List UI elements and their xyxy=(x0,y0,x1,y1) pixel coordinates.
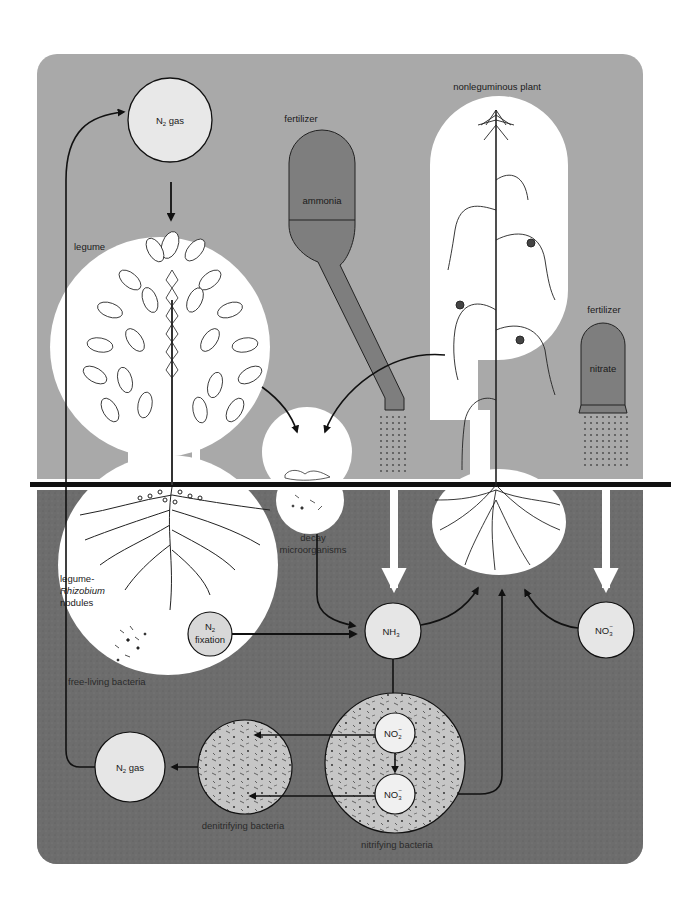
nitrogen-cycle-diagram: N2 gas legume xyxy=(0,0,681,905)
ammonia-spray xyxy=(380,412,410,472)
nitrate-spray xyxy=(580,415,628,470)
fertilizer-ammonia-title: fertilizer xyxy=(284,113,317,124)
n2-gas-top-label: N2 gas xyxy=(156,115,184,127)
fertilizer-nitrate-title: fertilizer xyxy=(587,304,620,315)
nonleguminous-plant-label: nonleguminous plant xyxy=(453,81,541,92)
rhizobium-label-line3: nodules xyxy=(60,597,94,608)
free-living-bacteria-label: free-living bacteria xyxy=(68,676,146,687)
nitrifying-bacteria-label: nitrifying bacteria xyxy=(361,839,434,850)
n2-fixation-label-line2: fixation xyxy=(195,634,225,645)
legume-label: legume xyxy=(74,241,105,252)
rhizobium-label-line1: legume- xyxy=(60,573,94,584)
denitrifying-bacteria-label: denitrifying bacteria xyxy=(202,820,285,831)
denitrifying-bacteria-region xyxy=(198,720,292,814)
n2-gas-bottom-label: N2 gas xyxy=(116,762,144,774)
decay-label-line1: decay xyxy=(300,532,326,543)
ground-line xyxy=(30,482,671,487)
ammonia-label: ammonia xyxy=(302,195,342,206)
decay-label-line2: microorganisms xyxy=(279,544,346,555)
nitrate-label: nitrate xyxy=(590,363,616,374)
